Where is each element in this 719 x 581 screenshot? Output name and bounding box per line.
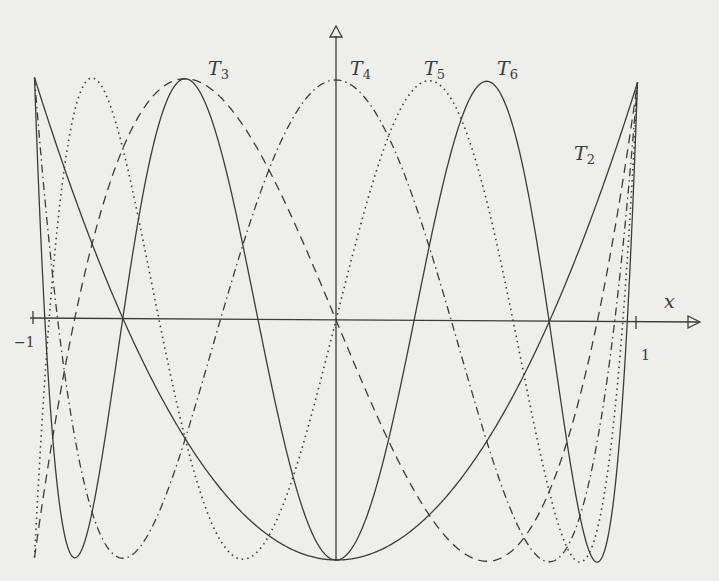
chart-container: −1 1 x T2T3T4T5T6 [0, 0, 719, 581]
label-t6: T6 [497, 57, 518, 82]
x-tick-label-minus1: −1 [14, 334, 35, 350]
label-t4: T4 [350, 57, 371, 82]
x-axis-label: x [664, 290, 675, 312]
x-tick-label-1: 1 [641, 347, 650, 363]
label-t3: T3 [208, 57, 229, 82]
label-t5: T5 [424, 57, 445, 82]
y-axis-arrow-icon [330, 26, 342, 37]
series-labels: T2T3T4T5T6 [208, 57, 595, 167]
chebyshev-plot: −1 1 x T2T3T4T5T6 [0, 0, 719, 581]
axes-group [30, 26, 700, 560]
label-t2: T2 [574, 142, 595, 167]
x-axis [30, 318, 700, 322]
